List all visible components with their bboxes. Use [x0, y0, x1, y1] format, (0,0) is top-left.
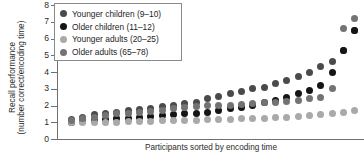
data-point: [91, 114, 98, 121]
data-point: [125, 110, 132, 117]
data-point: [193, 103, 200, 110]
data-point: [306, 95, 313, 102]
data-point: [317, 94, 324, 101]
legend-marker-icon: [60, 36, 67, 43]
legend-item-2: Younger adults (20–25): [60, 33, 176, 46]
chart-legend: Younger children (9–10)Older children (1…: [54, 3, 182, 61]
legend-label: Older adults (65–78): [72, 47, 148, 57]
x-axis-title: Participants sorted by encoding time: [58, 143, 364, 152]
data-point: [261, 99, 268, 106]
y-axis-title-line-2: (number correct/encoding time): [17, 21, 26, 135]
data-point: [283, 98, 290, 105]
data-point: [215, 102, 222, 109]
data-point: [329, 85, 336, 92]
y-axis-tick-label: 8: [36, 0, 49, 10]
legend-label: Older children (11–12): [72, 22, 155, 32]
y-axis-tick: [51, 139, 57, 140]
data-point: [147, 108, 154, 115]
legend-item-0: Younger children (9–10): [60, 8, 176, 21]
data-point: [136, 109, 143, 116]
legend-marker-icon: [60, 10, 67, 17]
data-point: [159, 107, 166, 114]
legend-marker-icon: [60, 23, 67, 30]
legend-item-3: Older adults (65–78): [60, 46, 176, 59]
data-point: [113, 110, 120, 117]
data-point: [272, 99, 279, 106]
data-point: [79, 115, 86, 122]
y-axis-tick-label: 0: [36, 134, 49, 144]
y-axis-tick-label: 7: [36, 16, 49, 26]
y-axis-tick-label: 4: [36, 67, 49, 77]
data-point: [295, 97, 302, 104]
data-point: [102, 112, 109, 119]
legend-label: Younger children (9–10): [72, 9, 161, 19]
data-point: [204, 102, 211, 109]
y-axis-tick-label: 5: [36, 50, 49, 60]
y-axis-tick: [51, 122, 57, 123]
y-axis-tick-label: 1: [36, 117, 49, 127]
data-point: [170, 105, 177, 112]
y-axis-tick-label: 6: [36, 33, 49, 43]
data-point: [351, 15, 358, 22]
data-point: [68, 117, 75, 124]
y-axis-tick: [51, 89, 57, 90]
chart-container: Recall performance (number correct/encod…: [0, 0, 364, 155]
data-point: [227, 102, 234, 109]
y-axis-tick: [51, 106, 57, 107]
y-axis-title: Recall performance (number correct/encod…: [0, 0, 34, 155]
y-axis-tick-label: 3: [36, 83, 49, 93]
legend-label: Younger adults (20–25): [72, 34, 159, 44]
data-point: [340, 25, 347, 32]
data-point: [181, 104, 188, 111]
legend-item-1: Older children (11–12): [60, 20, 176, 33]
y-axis-tick-label: 2: [36, 100, 49, 110]
y-axis-tick: [51, 72, 57, 73]
data-point: [249, 100, 256, 107]
data-point: [238, 101, 245, 108]
legend-marker-icon: [60, 49, 67, 56]
y-axis-title-line-1: Recall performance: [8, 42, 17, 113]
